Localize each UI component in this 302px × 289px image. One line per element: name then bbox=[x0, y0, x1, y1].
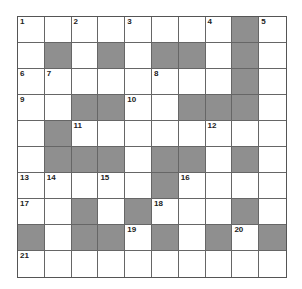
answer-cell[interactable] bbox=[259, 251, 286, 277]
block-cell bbox=[152, 147, 179, 173]
crossword-grid: 123456789101112131415161718192021 bbox=[17, 16, 287, 278]
answer-cell[interactable] bbox=[45, 199, 72, 225]
answer-cell[interactable] bbox=[259, 95, 286, 121]
block-cell bbox=[18, 225, 45, 251]
answer-cell[interactable]: 1 bbox=[18, 17, 45, 43]
answer-cell[interactable] bbox=[206, 43, 233, 69]
clue-number: 18 bbox=[154, 200, 163, 208]
answer-cell[interactable] bbox=[45, 95, 72, 121]
block-cell bbox=[72, 225, 99, 251]
answer-cell[interactable] bbox=[152, 17, 179, 43]
answer-cell[interactable] bbox=[259, 121, 286, 147]
answer-cell[interactable] bbox=[98, 251, 125, 277]
answer-cell[interactable]: 2 bbox=[72, 17, 99, 43]
clue-number: 15 bbox=[100, 174, 109, 182]
answer-cell[interactable]: 19 bbox=[125, 225, 152, 251]
block-cell bbox=[72, 95, 99, 121]
clue-number: 6 bbox=[20, 70, 24, 78]
answer-cell[interactable] bbox=[45, 225, 72, 251]
block-cell bbox=[152, 43, 179, 69]
answer-cell[interactable]: 3 bbox=[125, 17, 152, 43]
answer-cell[interactable] bbox=[45, 17, 72, 43]
answer-cell[interactable] bbox=[232, 251, 259, 277]
answer-cell[interactable]: 5 bbox=[259, 17, 286, 43]
answer-cell[interactable]: 11 bbox=[72, 121, 99, 147]
answer-cell[interactable] bbox=[259, 69, 286, 95]
block-cell bbox=[179, 147, 206, 173]
answer-cell[interactable] bbox=[179, 199, 206, 225]
answer-cell[interactable] bbox=[179, 69, 206, 95]
block-cell bbox=[152, 173, 179, 199]
block-cell bbox=[232, 147, 259, 173]
answer-cell[interactable]: 10 bbox=[125, 95, 152, 121]
block-cell bbox=[125, 199, 152, 225]
answer-cell[interactable] bbox=[179, 121, 206, 147]
clue-number: 1 bbox=[20, 18, 24, 26]
clue-number: 8 bbox=[154, 70, 158, 78]
clue-number: 16 bbox=[181, 174, 190, 182]
answer-cell[interactable] bbox=[125, 147, 152, 173]
answer-cell[interactable] bbox=[259, 199, 286, 225]
answer-cell[interactable]: 20 bbox=[232, 225, 259, 251]
answer-cell[interactable] bbox=[125, 121, 152, 147]
answer-cell[interactable]: 9 bbox=[18, 95, 45, 121]
answer-cell[interactable] bbox=[206, 69, 233, 95]
answer-cell[interactable] bbox=[125, 43, 152, 69]
answer-cell[interactable] bbox=[232, 173, 259, 199]
answer-cell[interactable]: 4 bbox=[206, 17, 233, 43]
clue-number: 5 bbox=[261, 18, 265, 26]
answer-cell[interactable] bbox=[98, 17, 125, 43]
answer-cell[interactable] bbox=[232, 121, 259, 147]
answer-cell[interactable]: 14 bbox=[45, 173, 72, 199]
answer-cell[interactable] bbox=[98, 69, 125, 95]
answer-cell[interactable] bbox=[45, 251, 72, 277]
clue-number: 10 bbox=[127, 96, 136, 104]
answer-cell[interactable]: 16 bbox=[179, 173, 206, 199]
answer-cell[interactable]: 15 bbox=[98, 173, 125, 199]
answer-cell[interactable] bbox=[206, 199, 233, 225]
answer-cell[interactable]: 21 bbox=[18, 251, 45, 277]
answer-cell[interactable]: 18 bbox=[152, 199, 179, 225]
clue-number: 19 bbox=[127, 226, 136, 234]
answer-cell[interactable] bbox=[259, 173, 286, 199]
answer-cell[interactable]: 7 bbox=[45, 69, 72, 95]
answer-cell[interactable] bbox=[18, 147, 45, 173]
block-cell bbox=[179, 95, 206, 121]
answer-cell[interactable]: 8 bbox=[152, 69, 179, 95]
block-cell bbox=[98, 95, 125, 121]
answer-cell[interactable] bbox=[98, 121, 125, 147]
answer-cell[interactable] bbox=[152, 95, 179, 121]
clue-number: 21 bbox=[20, 252, 29, 260]
block-cell bbox=[72, 147, 99, 173]
answer-cell[interactable]: 13 bbox=[18, 173, 45, 199]
block-cell bbox=[179, 43, 206, 69]
clue-number: 2 bbox=[74, 18, 78, 26]
answer-cell[interactable] bbox=[179, 225, 206, 251]
answer-cell[interactable] bbox=[125, 69, 152, 95]
answer-cell[interactable] bbox=[98, 199, 125, 225]
clue-number: 12 bbox=[208, 122, 217, 130]
answer-cell[interactable] bbox=[125, 251, 152, 277]
answer-cell[interactable] bbox=[72, 173, 99, 199]
answer-cell[interactable] bbox=[125, 173, 152, 199]
answer-cell[interactable] bbox=[72, 43, 99, 69]
block-cell bbox=[232, 69, 259, 95]
answer-cell[interactable] bbox=[259, 43, 286, 69]
answer-cell[interactable] bbox=[206, 251, 233, 277]
answer-cell[interactable] bbox=[206, 147, 233, 173]
answer-cell[interactable]: 12 bbox=[206, 121, 233, 147]
answer-cell[interactable]: 6 bbox=[18, 69, 45, 95]
answer-cell[interactable] bbox=[259, 147, 286, 173]
block-cell bbox=[206, 95, 233, 121]
answer-cell[interactable] bbox=[179, 251, 206, 277]
block-cell bbox=[98, 147, 125, 173]
answer-cell[interactable] bbox=[179, 17, 206, 43]
answer-cell[interactable]: 17 bbox=[18, 199, 45, 225]
answer-cell[interactable] bbox=[18, 121, 45, 147]
answer-cell[interactable] bbox=[18, 43, 45, 69]
answer-cell[interactable] bbox=[72, 69, 99, 95]
answer-cell[interactable] bbox=[152, 251, 179, 277]
answer-cell[interactable] bbox=[152, 121, 179, 147]
answer-cell[interactable] bbox=[206, 173, 233, 199]
answer-cell[interactable] bbox=[72, 251, 99, 277]
